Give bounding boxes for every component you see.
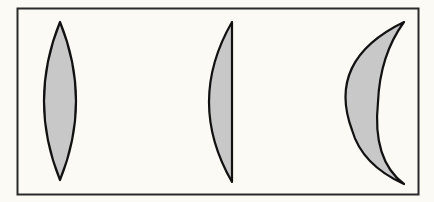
lens-diagram: Biconvex lens Plano-convex lens Concave-… xyxy=(0,0,434,202)
lens-diagram-svg xyxy=(0,0,434,202)
